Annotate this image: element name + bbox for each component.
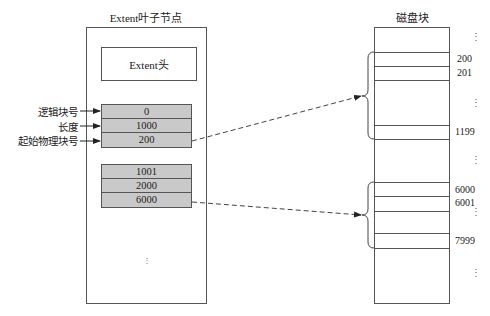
braces <box>362 52 374 248</box>
dashed-pointers <box>192 96 361 215</box>
field-arrows <box>80 111 100 141</box>
connectors <box>0 0 490 316</box>
